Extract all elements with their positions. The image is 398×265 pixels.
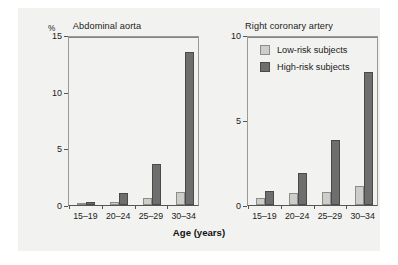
bar-high-30-34	[185, 52, 194, 205]
plot-area-left: 15–19 20–24 25–29 30–34	[68, 36, 199, 206]
legend-swatch-low-risk	[260, 45, 270, 55]
bar-low-15-19	[256, 198, 265, 205]
legend-item-high-risk: High-risk subjects	[260, 62, 350, 72]
ytick-mark	[243, 36, 247, 37]
ytick-label-0: 0	[215, 201, 241, 211]
ytick-mark	[243, 121, 247, 122]
legend-swatch-high-risk	[260, 62, 270, 72]
chart-panel-abdominal-aorta: Abdominal aorta % 15–19 20–24 25–29	[18, 8, 199, 251]
chart-panel-right-coronary-artery: Right coronary artery 15–19 20–24 25–29 …	[199, 8, 380, 251]
bar-high-15-19	[265, 191, 274, 205]
bar-high-20-24	[119, 193, 128, 205]
bar-low-25-29	[143, 198, 152, 205]
xtick-mark	[69, 205, 70, 209]
ytick-mark	[64, 36, 68, 37]
ytick-label-15: 15	[36, 31, 62, 41]
ytick-mark	[243, 206, 247, 207]
bar-low-25-29	[322, 192, 331, 205]
plot-area-right: 15–19 20–24 25–29 30–34 Low-risk subject…	[247, 36, 378, 206]
legend-item-low-risk: Low-risk subjects	[260, 45, 350, 55]
ytick-mark	[64, 149, 68, 150]
figure-canvas: Abdominal aorta % 15–19 20–24 25–29	[18, 8, 380, 251]
bar-low-30-34	[176, 192, 185, 205]
xtick-mark	[167, 205, 168, 209]
xtick-mark	[281, 205, 282, 209]
legend-label-high-risk: High-risk subjects	[277, 62, 350, 72]
ytick-mark	[64, 206, 68, 207]
gridline-5	[248, 37, 377, 38]
panel-title-right: Right coronary artery	[209, 21, 369, 31]
legend: Low-risk subjects High-risk subjects	[260, 45, 350, 72]
x-axis-title: Age (years)	[18, 227, 380, 238]
ytick-label-5: 5	[36, 144, 62, 154]
bar-low-15-19	[77, 203, 86, 205]
bar-high-20-24	[298, 173, 307, 205]
xtick-label-30-34: 30–34	[340, 211, 386, 221]
bar-low-30-34	[355, 186, 364, 205]
bar-low-20-24	[110, 202, 119, 205]
ytick-mark	[64, 93, 68, 94]
ytick-label-10: 10	[215, 31, 241, 41]
bar-high-25-29	[331, 140, 340, 205]
bar-high-25-29	[152, 164, 161, 205]
xtick-mark	[248, 205, 249, 209]
xtick-mark	[135, 205, 136, 209]
legend-label-low-risk: Low-risk subjects	[277, 45, 347, 55]
xtick-mark	[346, 205, 347, 209]
xtick-mark	[102, 205, 103, 209]
xtick-mark	[314, 205, 315, 209]
ytick-label-10: 10	[36, 88, 62, 98]
bar-high-30-34	[364, 72, 373, 205]
ytick-label-5: 5	[215, 116, 241, 126]
bar-high-15-19	[86, 202, 95, 205]
gridline-5	[69, 37, 198, 38]
bar-low-20-24	[289, 193, 298, 205]
ytick-label-0: 0	[36, 201, 62, 211]
